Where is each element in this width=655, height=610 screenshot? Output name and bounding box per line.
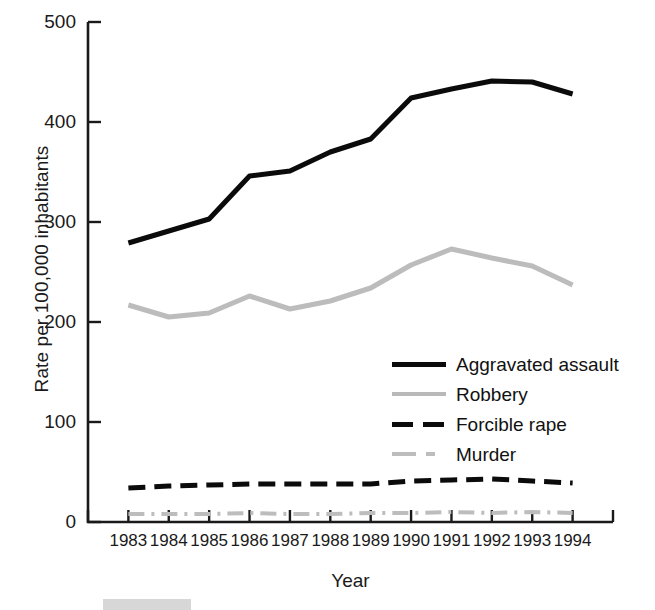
crime-rate-line-chart: 0100200300400500 19831984198519861987198…: [0, 0, 655, 610]
legend-item-murder: Murder: [392, 439, 619, 469]
x-tick-label-1985: 1985: [186, 532, 232, 551]
legend-label-murder: Murder: [456, 445, 516, 464]
x-tick-label-1989: 1989: [348, 532, 394, 551]
legend-label-forcible-rape: Forcible rape: [456, 415, 567, 434]
x-tick-label-1991: 1991: [428, 532, 474, 551]
footer-gray-bar: [103, 599, 191, 610]
x-tick-label-1992: 1992: [469, 532, 515, 551]
legend-label-aggravated-assault: Aggravated assault: [456, 355, 619, 374]
y-tick-label-500: 500: [14, 12, 76, 31]
y-axis-title: Rate per 100,000 inhabitants: [31, 59, 53, 479]
series-line-robbery: [128, 249, 572, 317]
chart-legend: Aggravated assault Robbery Forcible rape…: [392, 349, 619, 469]
x-tick-label-1994: 1994: [550, 532, 596, 551]
x-tick-label-1984: 1984: [146, 532, 192, 551]
legend-swatch-forcible-rape: [392, 417, 446, 431]
x-tick-label-1988: 1988: [307, 532, 353, 551]
x-tick-label-1983: 1983: [105, 532, 151, 551]
legend-swatch-murder: [392, 447, 446, 461]
series-line-forcible-rape: [128, 479, 572, 488]
legend-swatch-robbery: [392, 387, 446, 401]
legend-item-forcible-rape: Forcible rape: [392, 409, 619, 439]
x-axis-title: Year: [88, 570, 613, 592]
x-tick-label-1986: 1986: [227, 532, 273, 551]
x-tick-label-1990: 1990: [388, 532, 434, 551]
legend-label-robbery: Robbery: [456, 385, 528, 404]
series-line-murder: [128, 512, 572, 514]
x-tick-label-1993: 1993: [509, 532, 555, 551]
plot-area: [0, 0, 655, 610]
series-line-aggravated-assault: [128, 81, 572, 243]
x-tick-label-1987: 1987: [267, 532, 313, 551]
y-tick-label-0: 0: [14, 512, 76, 531]
legend-item-robbery: Robbery: [392, 379, 619, 409]
legend-item-aggravated-assault: Aggravated assault: [392, 349, 619, 379]
legend-swatch-aggravated-assault: [392, 357, 446, 371]
